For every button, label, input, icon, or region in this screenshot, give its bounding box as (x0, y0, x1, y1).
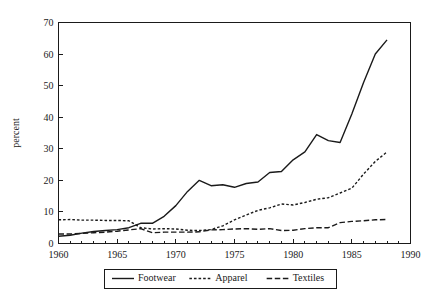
y-axis-ticks: 010203040506070 (44, 17, 63, 249)
line-chart: percent 010203040506070 1960196519701975… (0, 0, 435, 304)
x-axis-tick-label: 1975 (225, 249, 245, 260)
y-axis-tick-label: 60 (44, 49, 54, 60)
x-axis-major-ticks: 1960196519701975198019851990 (49, 239, 421, 260)
axis-frame (59, 23, 411, 244)
series-line-apparel (59, 152, 388, 231)
y-axis-title-label: percent (10, 118, 21, 148)
series-line-textiles (59, 220, 388, 235)
y-axis-title: percent (10, 118, 21, 148)
x-axis-tick-label: 1960 (49, 249, 69, 260)
y-axis-tick-label: 30 (44, 143, 54, 154)
x-axis-tick-label: 1985 (342, 249, 362, 260)
y-axis-tick-label: 70 (44, 17, 54, 28)
x-axis-tick-label: 1965 (107, 249, 127, 260)
legend-label-footwear: Footwear (138, 272, 176, 283)
x-axis-tick-label: 1980 (283, 249, 303, 260)
chart-legend: FootwearApparelTextiles (104, 269, 336, 288)
y-axis-tick-label: 40 (44, 112, 54, 123)
y-axis-tick-label: 10 (44, 206, 54, 217)
x-axis-tick-label: 1990 (401, 249, 421, 260)
data-series-group (59, 40, 388, 236)
legend-label-apparel: Apparel (215, 272, 247, 283)
legend-label-textiles: Textiles (293, 272, 325, 283)
y-axis-tick-label: 20 (44, 175, 54, 186)
chart-container: percent 010203040506070 1960196519701975… (0, 0, 435, 304)
series-line-footwear (59, 40, 388, 236)
y-axis-tick-label: 0 (49, 238, 54, 249)
y-axis-tick-label: 50 (44, 80, 54, 91)
x-axis-tick-label: 1970 (166, 249, 186, 260)
